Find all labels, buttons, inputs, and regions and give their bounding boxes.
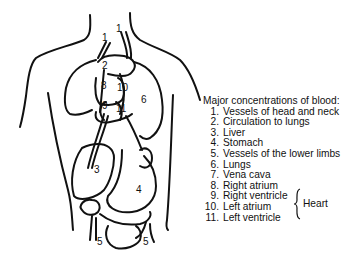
anatomy-figure: 1 1 2 8 10 6 9 11 3 4 5 5 Major concentr… — [0, 0, 352, 272]
heart-brace-icon — [0, 0, 352, 272]
heart-group-label: Heart — [303, 198, 328, 209]
